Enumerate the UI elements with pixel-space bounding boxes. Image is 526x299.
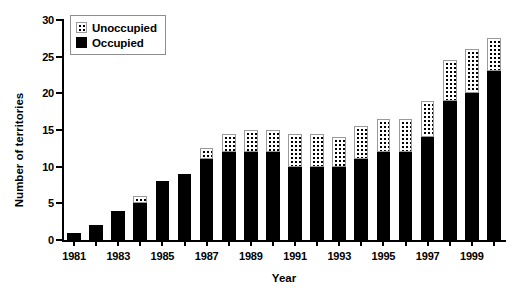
- bar-segment-occupied: [222, 152, 236, 240]
- bar-segment-occupied: [443, 101, 457, 240]
- bar-segment-unoccupied: [200, 148, 214, 159]
- bar-group: [354, 20, 368, 240]
- x-axis-tick-label: 1995: [372, 250, 396, 262]
- bar-segment-unoccupied: [443, 60, 457, 100]
- bar-group: [266, 20, 280, 240]
- bar-segment-unoccupied: [487, 38, 501, 71]
- bar-segment-occupied: [200, 159, 214, 240]
- y-axis-tick-mark: [56, 19, 62, 21]
- y-axis-title: Number of territories: [13, 50, 25, 250]
- bar-segment-occupied: [310, 167, 324, 240]
- x-axis-tick-label: 1981: [62, 250, 86, 262]
- y-axis-tick-mark: [56, 166, 62, 168]
- x-axis-tick: [250, 240, 252, 246]
- bar-segment-occupied: [178, 174, 192, 240]
- x-axis-tick: [405, 240, 407, 246]
- y-axis-tick-label: 20: [42, 87, 54, 99]
- y-axis-tick-mark: [56, 129, 62, 131]
- x-axis-tick: [294, 240, 296, 246]
- bar-group: [332, 20, 346, 240]
- x-axis-tick: [449, 240, 451, 246]
- legend-item-occupied: Occupied: [76, 35, 157, 50]
- bar-segment-occupied: [89, 225, 103, 240]
- bar-segment-occupied: [111, 211, 125, 240]
- x-axis-tick-label: 1987: [195, 250, 219, 262]
- legend-label-unoccupied: Unoccupied: [92, 22, 157, 34]
- x-axis-tick: [95, 240, 97, 246]
- x-axis-tick: [161, 240, 163, 246]
- y-axis-tick-label: 5: [48, 197, 54, 209]
- x-axis-tick-label: 1999: [460, 250, 484, 262]
- y-axis-tick-mark: [56, 92, 62, 94]
- legend-swatch-unoccupied-icon: [76, 22, 87, 33]
- x-axis-tick: [427, 240, 429, 246]
- bar-segment-occupied: [354, 159, 368, 240]
- bar-group: [222, 20, 236, 240]
- x-axis-title: Year: [63, 272, 505, 284]
- bar-group: [178, 20, 192, 240]
- x-axis-line: [62, 240, 506, 242]
- bar-group: [421, 20, 435, 240]
- bar-group: [487, 20, 501, 240]
- bar-segment-unoccupied: [465, 49, 479, 93]
- bar-group: [244, 20, 258, 240]
- y-axis-tick-label: 10: [42, 161, 54, 173]
- y-axis-tick-mark: [56, 239, 62, 241]
- bar-segment-unoccupied: [354, 126, 368, 159]
- x-axis-tick: [139, 240, 141, 246]
- bar-segment-occupied: [266, 152, 280, 240]
- bar-chart: 0510152025301981198319851987198919911993…: [0, 0, 526, 299]
- bar-segment-occupied: [465, 93, 479, 240]
- x-axis-tick-label: 1985: [151, 250, 175, 262]
- x-axis-tick: [338, 240, 340, 246]
- bar-segment-unoccupied: [222, 134, 236, 152]
- x-axis-tick: [382, 240, 384, 246]
- bar-segment-occupied: [67, 233, 81, 240]
- bar-group: [200, 20, 214, 240]
- x-axis-tick: [184, 240, 186, 246]
- bar-segment-occupied: [156, 181, 170, 240]
- x-axis-tick: [206, 240, 208, 246]
- x-axis-tick-label: 1983: [106, 250, 130, 262]
- bar-group: [310, 20, 324, 240]
- bar-segment-unoccupied: [266, 130, 280, 152]
- bar-segment-unoccupied: [244, 130, 258, 152]
- y-axis-tick-mark: [56, 202, 62, 204]
- chart-legend: Unoccupied Occupied: [70, 15, 166, 55]
- y-axis-tick-label: 25: [42, 51, 54, 63]
- x-axis-tick-label: 1991: [283, 250, 307, 262]
- bar-group: [399, 20, 413, 240]
- bar-segment-unoccupied: [133, 196, 147, 203]
- bar-group: [288, 20, 302, 240]
- bar-group: [465, 20, 479, 240]
- bar-segment-occupied: [487, 71, 501, 240]
- x-axis-tick: [272, 240, 274, 246]
- x-axis-tick: [360, 240, 362, 246]
- bar-segment-unoccupied: [399, 119, 413, 152]
- y-axis-tick-label: 30: [42, 14, 54, 26]
- bar-segment-occupied: [377, 152, 391, 240]
- legend-item-unoccupied: Unoccupied: [76, 20, 157, 35]
- x-axis-tick: [471, 240, 473, 246]
- bar-segment-occupied: [288, 167, 302, 240]
- x-axis-tick: [73, 240, 75, 246]
- x-axis-tick-label: 1989: [239, 250, 263, 262]
- bar-group: [443, 20, 457, 240]
- y-axis-tick-label: 15: [42, 124, 54, 136]
- x-axis-tick-label: 1997: [416, 250, 440, 262]
- bar-segment-unoccupied: [332, 137, 346, 166]
- x-axis-tick: [117, 240, 119, 246]
- bar-segment-occupied: [421, 137, 435, 240]
- bar-segment-occupied: [244, 152, 258, 240]
- x-axis-tick: [493, 240, 495, 246]
- y-axis-tick-mark: [56, 56, 62, 58]
- legend-swatch-occupied-icon: [76, 37, 87, 48]
- bar-group: [377, 20, 391, 240]
- y-axis-tick-label: 0: [48, 234, 54, 246]
- legend-label-occupied: Occupied: [92, 37, 144, 49]
- x-axis-tick: [316, 240, 318, 246]
- bar-segment-unoccupied: [288, 134, 302, 167]
- bar-segment-occupied: [399, 152, 413, 240]
- x-axis-tick: [228, 240, 230, 246]
- bar-segment-unoccupied: [377, 119, 391, 152]
